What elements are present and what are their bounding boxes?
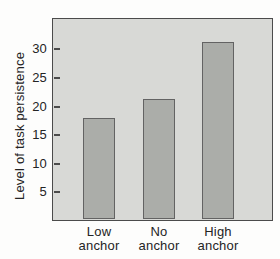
y-tick-mark — [54, 106, 60, 108]
bar-chart-figure: Level of task persistence 51015202530Low… — [0, 0, 280, 259]
y-tick-label: 10 — [14, 156, 47, 172]
y-tick-label: 30 — [14, 41, 47, 57]
x-category-label-high: Highanchor — [178, 225, 258, 253]
y-tick-label: 20 — [14, 99, 47, 115]
bar-high-anchor — [202, 42, 234, 219]
y-tick-label: 15 — [14, 127, 47, 143]
y-tick-mark — [54, 134, 60, 136]
x-category-label-line2: anchor — [178, 239, 258, 253]
y-tick-mark — [54, 48, 60, 50]
y-tick-mark — [54, 191, 60, 193]
y-tick-label: 25 — [14, 70, 47, 86]
bar-low-anchor — [83, 118, 115, 220]
y-tick-mark — [54, 163, 60, 165]
x-category-label-line1: High — [178, 225, 258, 239]
y-tick-label: 5 — [14, 184, 47, 200]
bar-no-anchor — [143, 99, 175, 219]
y-tick-mark — [54, 77, 60, 79]
